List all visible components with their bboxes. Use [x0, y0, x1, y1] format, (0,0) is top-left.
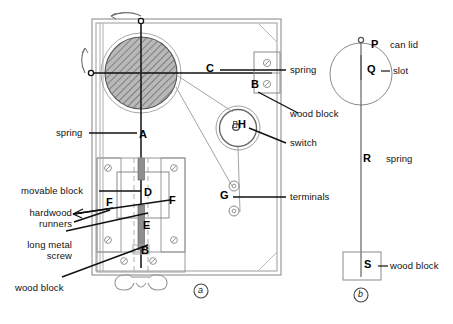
wiring	[176, 76, 240, 212]
key-letter-B-lower: B	[141, 244, 149, 256]
panel-b-assembly	[330, 37, 392, 280]
key-letter-P: P	[371, 38, 378, 50]
label-spring-b: spring	[386, 153, 412, 164]
screw-head	[150, 258, 157, 265]
wing-nut	[115, 275, 167, 290]
label-switch: switch	[290, 137, 317, 148]
screw-head	[105, 237, 112, 244]
screw-head	[263, 59, 270, 66]
screw-head	[171, 165, 178, 172]
panel-marker-label-a: a	[198, 285, 203, 296]
figure-canvas: A B B C D E F F G H P Q R S spring movab…	[0, 0, 453, 324]
rotation-arrow-top	[111, 13, 141, 19]
label-movable-block: movable block	[21, 185, 83, 196]
key-letter-Q: Q	[367, 63, 376, 75]
label-wood-block-bottom: wood block	[15, 282, 64, 293]
panel-marker-label-b: b	[358, 289, 363, 300]
label-slot: slot	[393, 65, 408, 76]
key-letter-S: S	[364, 258, 371, 270]
screw-head	[263, 80, 270, 87]
key-letter-R: R	[363, 152, 371, 164]
terminal-post	[229, 181, 239, 191]
label-can-lid: can lid	[390, 39, 418, 50]
key-letter-E: E	[143, 219, 150, 231]
label-spring-left: spring	[56, 127, 82, 138]
screw-head	[171, 237, 178, 244]
key-letter-B-upper: B	[251, 78, 259, 90]
leader-arrowheads	[73, 209, 83, 218]
label-hardwood-runners: hardwood runners	[8, 207, 72, 229]
screw-head	[121, 258, 128, 265]
key-letter-H: H	[238, 118, 246, 130]
label-wood-block-upper: wood block	[290, 108, 339, 119]
key-letter-F-left: F	[106, 196, 113, 208]
leader-lines-b	[378, 71, 390, 266]
screw-head	[105, 165, 112, 172]
label-spring-right: spring	[290, 64, 316, 75]
key-letter-D: D	[144, 186, 152, 198]
key-letter-F-right: F	[169, 194, 176, 206]
label-terminals: terminals	[290, 191, 329, 202]
key-letter-A: A	[139, 128, 147, 140]
rotation-arrow-left	[82, 48, 88, 73]
key-letter-C: C	[206, 62, 214, 74]
terminal-post	[229, 206, 239, 216]
key-letter-G: G	[220, 189, 229, 201]
label-wood-block-b: wood block	[390, 260, 439, 271]
guide-rails	[100, 23, 103, 271]
label-long-metal-screw: long metal screw	[8, 239, 72, 261]
